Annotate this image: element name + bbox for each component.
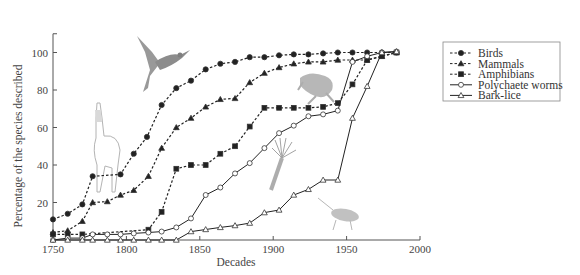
point-polychaete-worms: [146, 230, 151, 235]
point-mammals: [247, 80, 253, 85]
point-birds: [203, 67, 208, 72]
point-amphibians: [189, 163, 194, 168]
point-amphibians: [203, 163, 208, 168]
x-tick-label: 1900: [262, 243, 285, 255]
point-polychaete-worms: [118, 232, 123, 237]
point-polychaete-worms: [159, 229, 164, 234]
point-birds: [159, 102, 164, 107]
point-polychaete-worms: [291, 123, 296, 128]
x-axis-label: Decades: [217, 256, 256, 268]
point-mammals: [146, 173, 152, 178]
hummingbird-illustration: [137, 36, 190, 92]
chart: 20406080100175018001850190019502000Decad…: [0, 0, 580, 275]
point-birds: [188, 78, 193, 83]
point-mammals: [173, 125, 179, 130]
point-amphibians: [321, 104, 326, 109]
point-bark-lice: [247, 220, 253, 225]
point-birds: [262, 55, 267, 60]
point-polychaete-worms: [131, 231, 136, 236]
point-bark-lice: [364, 83, 370, 88]
x-tick-label: 1750: [42, 243, 65, 255]
point-mammals: [159, 145, 165, 150]
point-polychaete-worms: [218, 185, 223, 190]
point-birds: [350, 50, 355, 55]
y-tick-label: 60: [37, 122, 49, 134]
y-tick-label: 80: [37, 84, 49, 96]
point-birds: [291, 52, 296, 57]
point-birds: [218, 61, 223, 66]
point-birds: [306, 52, 311, 57]
x-tick-label: 1850: [189, 243, 212, 255]
point-birds: [131, 151, 136, 156]
point-mammals: [79, 218, 85, 223]
x-tick-label: 1800: [115, 243, 138, 255]
point-birds: [335, 50, 340, 55]
point-mammals: [104, 199, 110, 204]
point-birds: [321, 51, 326, 56]
point-polychaete-worms: [203, 193, 208, 198]
point-birds: [80, 202, 85, 207]
point-amphibians: [291, 105, 296, 110]
point-birds: [247, 55, 252, 60]
point-amphibians: [247, 124, 252, 129]
legend: BirdsMammalsAmphibiansPolychaete wormsBa…: [443, 42, 563, 101]
point-birds: [276, 53, 281, 58]
legend-marker: [459, 72, 464, 77]
point-polychaete-worms: [306, 114, 311, 119]
polychaete-worm-illustration: [271, 138, 296, 190]
frog-illustration: [298, 73, 334, 104]
llama-illustration: [94, 103, 120, 192]
point-amphibians: [277, 105, 282, 110]
series-birds: [50, 50, 399, 222]
point-polychaete-worms: [277, 131, 282, 136]
point-birds: [50, 217, 55, 222]
legend-marker: [458, 50, 463, 55]
point-polychaete-worms: [247, 161, 252, 166]
point-birds: [232, 59, 237, 64]
point-amphibians: [262, 105, 267, 110]
y-tick-label: 40: [37, 159, 49, 171]
point-polychaete-worms: [335, 108, 340, 113]
x-tick-label: 1950: [336, 243, 359, 255]
series-line-mammals: [53, 53, 397, 233]
point-amphibians: [159, 209, 164, 214]
point-amphibians: [350, 82, 355, 87]
point-polychaete-worms: [105, 232, 110, 237]
point-amphibians: [51, 232, 56, 237]
point-polychaete-worms: [233, 171, 238, 176]
point-birds: [174, 86, 179, 91]
legend-marker: [459, 82, 464, 87]
point-birds: [65, 211, 70, 216]
point-birds: [144, 134, 149, 139]
point-polychaete-worms: [321, 112, 326, 117]
point-amphibians: [218, 151, 223, 156]
point-mammals: [306, 59, 312, 64]
point-polychaete-worms: [365, 54, 370, 59]
point-birds: [90, 174, 95, 179]
point-amphibians: [233, 144, 238, 149]
bark-louse-illustration: [318, 198, 360, 230]
point-polychaete-worms: [90, 232, 95, 237]
point-mammals: [217, 96, 223, 101]
point-polychaete-worms: [350, 59, 355, 64]
y-tick-label: 20: [37, 197, 49, 209]
point-amphibians: [174, 166, 179, 171]
series-line-amphibians: [53, 53, 397, 235]
point-mammals: [261, 70, 267, 75]
point-amphibians: [306, 105, 311, 110]
point-bark-lice: [350, 115, 356, 120]
point-polychaete-worms: [174, 225, 179, 230]
point-polychaete-worms: [262, 146, 267, 151]
legend-label: Bark-lice: [478, 89, 521, 101]
point-birds: [118, 172, 123, 177]
y-axis-label: Percentage of the species described: [12, 64, 25, 227]
x-tick-label: 2000: [409, 243, 432, 255]
point-polychaete-worms: [188, 216, 193, 221]
axes: 20406080100175018001850190019502000Decad…: [12, 34, 432, 268]
point-bark-lice: [306, 186, 312, 191]
y-tick-label: 100: [32, 47, 49, 59]
point-mammals: [118, 192, 124, 197]
